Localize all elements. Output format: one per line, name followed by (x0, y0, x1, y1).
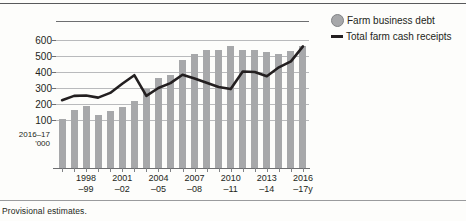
x-tick (122, 168, 123, 172)
chart-legend: Farm business debt Total farm cash recei… (331, 14, 463, 46)
plot-area (56, 20, 309, 169)
x-axis-label-line1: 2004 (141, 173, 175, 184)
x-axis-label: 2001–02 (105, 173, 139, 195)
x-tick (134, 168, 135, 172)
legend-label-farm-business-debt: Farm business debt (347, 15, 435, 26)
x-tick (62, 168, 63, 172)
x-axis-label: 2013–14 (250, 173, 284, 195)
x-axis-label-line1: 2016 (286, 173, 320, 184)
x-tick (255, 168, 256, 172)
x-tick (243, 168, 244, 172)
x-axis-label: 2007–08 (178, 173, 212, 195)
x-axis-label-line2: –11 (214, 184, 248, 195)
y-axis: 600 500 400 300 200 100 2016–17 '000 (0, 20, 52, 172)
x-tick (158, 168, 159, 172)
x-tick (279, 168, 280, 172)
x-axis-label-line1: 2001 (105, 173, 139, 184)
top-divider (0, 3, 466, 4)
x-axis-label-line2: –99 (69, 184, 103, 195)
x-axis-labels: 1998–992001–022004–052007–082010–112013–… (56, 173, 309, 199)
x-axis-label-line2: –02 (105, 184, 139, 195)
x-axis-label-line2: –14 (250, 184, 284, 195)
y-tick-500: 500 (35, 51, 52, 62)
x-tick (219, 168, 220, 172)
x-tick (98, 168, 99, 172)
y-tick-600: 600 (35, 35, 52, 46)
x-axis-label-line1: 2013 (250, 173, 284, 184)
x-axis-label: 2010–11 (214, 173, 248, 195)
legend-item-total-farm-cash-receipts[interactable]: Total farm cash receipts (331, 31, 463, 42)
x-tick (195, 168, 196, 172)
x-tick (231, 168, 232, 172)
x-tick (74, 168, 75, 172)
x-axis-label: 1998–99 (69, 173, 103, 195)
y-tick-200: 200 (35, 99, 52, 110)
y-tick-400: 400 (35, 67, 52, 78)
x-axis-label-line1: 1998 (69, 173, 103, 184)
figure-container: 600 500 400 300 200 100 2016–17 '000 199… (0, 0, 466, 221)
x-axis-baseline (53, 168, 310, 169)
x-tick (267, 168, 268, 172)
x-tick (207, 168, 208, 172)
footnote-text: Provisional estimates. (2, 206, 87, 216)
x-axis-label: 2016–17y (286, 173, 320, 195)
x-tick (170, 168, 171, 172)
x-axis-label: 2004–05 (141, 173, 175, 195)
x-tick (110, 168, 111, 172)
legend-item-farm-business-debt[interactable]: Farm business debt (331, 14, 463, 27)
circle-marker-icon (331, 14, 344, 27)
x-axis-label-line2: –05 (141, 184, 175, 195)
y-tick-100: 100 (35, 115, 52, 126)
legend-label-total-farm-cash-receipts: Total farm cash receipts (346, 31, 452, 42)
x-tick (86, 168, 87, 172)
x-axis-label-line1: 2010 (214, 173, 248, 184)
x-axis-label-line1: 2007 (178, 173, 212, 184)
line-marker-icon (331, 35, 343, 38)
x-axis-label-line2: –08 (178, 184, 212, 195)
line-series-total-farm-cash-receipts (56, 20, 309, 168)
y-tick-300: 300 (35, 83, 52, 94)
x-axis-label-line2: –17y (286, 184, 320, 195)
y-axis-unit-line2: '000 (35, 139, 50, 148)
x-tick (183, 168, 184, 172)
y-axis-unit-line1: 2016–17 (19, 130, 50, 139)
bottom-divider (0, 200, 466, 201)
x-tick (146, 168, 147, 172)
x-tick (303, 168, 304, 172)
x-tick (291, 168, 292, 172)
